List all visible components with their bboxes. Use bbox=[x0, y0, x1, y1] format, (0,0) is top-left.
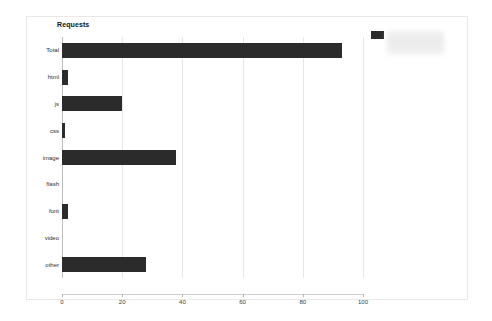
category-label-other: other bbox=[45, 262, 59, 268]
category-label-Total: Total bbox=[46, 47, 59, 53]
legend-color-swatch bbox=[371, 31, 384, 39]
category-label-flash: flash bbox=[46, 181, 59, 187]
tick-mark-80 bbox=[303, 294, 304, 297]
category-label-image: image bbox=[43, 155, 59, 161]
category-label-js: js bbox=[55, 101, 59, 107]
x-tick-label: 0 bbox=[60, 299, 63, 305]
bar-html bbox=[62, 70, 68, 85]
y-axis-category-labels: Totalhtmljscssimageflashfontvideoother bbox=[27, 17, 59, 299]
x-tick-label: 40 bbox=[179, 299, 186, 305]
bar-font bbox=[62, 204, 68, 219]
tick-mark-0 bbox=[62, 294, 63, 297]
tick-mark-60 bbox=[243, 294, 244, 297]
gridline-100 bbox=[363, 37, 364, 278]
chart-card: Requests 020406080100 Totalhtmljscssimag… bbox=[26, 16, 468, 300]
category-label-css: css bbox=[50, 128, 59, 134]
x-tick-label: 60 bbox=[239, 299, 246, 305]
x-tick-label: 100 bbox=[358, 299, 368, 305]
x-tick-label: 80 bbox=[299, 299, 306, 305]
category-label-font: font bbox=[49, 208, 59, 214]
bar-css bbox=[62, 123, 65, 138]
tick-mark-100 bbox=[363, 294, 364, 297]
tick-mark-20 bbox=[122, 294, 123, 297]
category-label-video: video bbox=[45, 235, 59, 241]
bar-Total bbox=[62, 43, 342, 58]
category-label-html: html bbox=[48, 74, 59, 80]
tick-mark-40 bbox=[182, 294, 183, 297]
plot-area bbox=[62, 37, 363, 278]
bar-js bbox=[62, 96, 122, 111]
gridline-80 bbox=[303, 37, 304, 278]
gridline-40 bbox=[182, 37, 183, 278]
bar-image bbox=[62, 150, 176, 165]
chart-title: Requests bbox=[57, 21, 89, 28]
gridline-60 bbox=[243, 37, 244, 278]
x-tick-label: 20 bbox=[119, 299, 126, 305]
legend-label-obscured bbox=[387, 31, 444, 55]
chart-legend bbox=[371, 31, 444, 55]
x-axis-line bbox=[62, 294, 363, 295]
bar-other bbox=[62, 257, 146, 272]
